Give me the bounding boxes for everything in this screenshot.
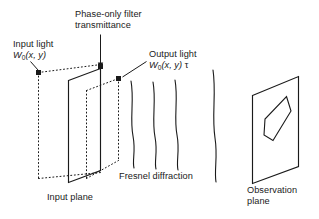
label-input-light-symbol-args: (x, y): [25, 50, 46, 60]
label-phase-only-filter-line2: transmittance: [75, 20, 131, 30]
label-input-light: Input light W0(x, y): [13, 39, 53, 63]
label-output-light-line1: Output light: [149, 49, 197, 59]
label-input-light-symbol-w: W: [13, 50, 22, 60]
label-output-light: Output light W0(x, y) τ: [149, 49, 197, 73]
label-input-light-line1: Input light: [13, 39, 53, 49]
label-input-plane: Input plane: [47, 192, 93, 203]
dot-output-light: [116, 76, 121, 81]
label-output-light-symbol-args: (x, y): [161, 60, 182, 70]
label-output-light-symbol-w: W: [149, 60, 158, 70]
dot-phase-filter: [98, 64, 103, 69]
label-observation-plane-line1: Observation: [247, 185, 297, 195]
label-fresnel-diffraction: Fresnel diffraction: [119, 171, 193, 182]
label-phase-only-filter-line1: Phase-only filter: [75, 9, 142, 19]
label-output-light-symbol-tau: τ: [185, 60, 189, 70]
dot-input-light: [36, 70, 41, 75]
label-phase-only-filter: Phase-only filter transmittance: [75, 9, 142, 31]
label-observation-plane: Observation plane: [247, 185, 297, 207]
label-observation-plane-line2: plane: [247, 196, 270, 206]
